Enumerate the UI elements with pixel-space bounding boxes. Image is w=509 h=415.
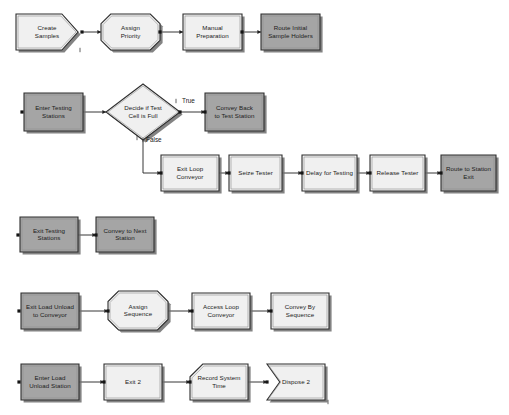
- node-label-assign-priority: AssignPriority: [121, 24, 142, 38]
- node-decide-test-cell-full[interactable]: Decide if TestCell is Full: [106, 84, 183, 143]
- row-exit-testing: Exit TestingStationsConvey to NextStatio…: [20, 217, 157, 255]
- connector-decide-test-cell-full-to-exit-loop-conveyor: [143, 140, 161, 173]
- node-route-initial-holders[interactable]: Route InitialSample Holders: [261, 14, 323, 53]
- connection-dot-dot-delay-in[interactable]: [300, 171, 303, 174]
- connection-dot-dot-enter-testing-in[interactable]: [20, 110, 23, 113]
- node-exit-testing-stations[interactable]: Exit TestingStations: [20, 217, 81, 255]
- row-sequence: Exit Load Unloadto ConveyorAssignSequenc…: [21, 291, 332, 333]
- connection-dot-dot-exit-testing-in[interactable]: [16, 233, 19, 236]
- connection-dot-dot-exitloop-in[interactable]: [159, 171, 162, 174]
- node-convey-by-sequence[interactable]: Convey BySequence: [271, 293, 332, 332]
- node-access-loop-conveyor[interactable]: Access LoopConveyor: [192, 293, 253, 332]
- branch-label-branch-false: False: [146, 136, 162, 143]
- connection-dot-dot-decide-true-out[interactable]: [178, 110, 181, 113]
- connection-dot-dot-assignseq-in[interactable]: [106, 309, 109, 312]
- node-seize-tester[interactable]: Seize Tester: [229, 155, 285, 194]
- connection-dot-dot-enter-load-in[interactable]: [17, 380, 20, 383]
- connection-dot-dot-release-in[interactable]: [368, 171, 371, 174]
- row-dispose: Enter LoadUnload StationExit 2Record Sys…: [21, 364, 328, 403]
- node-manual-preparation[interactable]: ManualPreparation: [183, 14, 245, 53]
- connection-dot-dot-access-in[interactable]: [190, 309, 193, 312]
- flowchart-diagram: CreateSamplesAssignPriorityManualPrepara…: [0, 0, 509, 415]
- node-label-dispose-2: Dispose 2: [282, 378, 310, 385]
- node-exit-load-unload-conveyor[interactable]: Exit Load Unloadto Conveyor: [21, 293, 82, 332]
- connection-dot-dot-seize-in[interactable]: [227, 171, 230, 174]
- connection-dot-dot-convey-next-in[interactable]: [94, 233, 97, 236]
- node-delay-for-testing[interactable]: Delay for Testing: [302, 155, 360, 194]
- node-enter-load-unload-station[interactable]: Enter LoadUnload Station: [21, 364, 82, 403]
- row-decide: Enter TestingStationsDecide if TestCell …: [24, 84, 267, 143]
- connection-dot-dot-manual-out[interactable]: [240, 30, 243, 33]
- connection-dot-dot-exit2-in[interactable]: [102, 380, 105, 383]
- row-create: CreateSamplesAssignPriorityManualPrepara…: [16, 14, 323, 53]
- node-label-create-samples: CreateSamples: [35, 24, 59, 38]
- node-exit-2[interactable]: Exit 2: [104, 364, 165, 403]
- node-label-enter-load-unload-station: Enter LoadUnload Station: [29, 374, 71, 388]
- node-label-seize-tester: Seize Tester: [238, 169, 273, 176]
- node-dispose-2[interactable]: Dispose 2: [267, 364, 328, 403]
- nodes-layer: CreateSamplesAssignPriorityManualPrepara…: [16, 14, 499, 403]
- node-label-delay-for-testing: Delay for Testing: [306, 169, 353, 176]
- node-release-tester[interactable]: Release Tester: [370, 155, 428, 194]
- node-route-station-exit[interactable]: Route to StationExit: [441, 155, 499, 194]
- node-assign-sequence[interactable]: AssignSequence: [108, 291, 171, 333]
- flowchart-canvas: CreateSamplesAssignPriorityManualPrepara…: [0, 0, 509, 415]
- connection-dot-dot-conveyby-in[interactable]: [269, 309, 272, 312]
- node-convey-back-test[interactable]: Convey Backto Test Station: [205, 93, 267, 134]
- connection-dot-dot-record-in[interactable]: [188, 380, 191, 383]
- node-convey-next-station[interactable]: Convey to NextStation: [96, 217, 157, 255]
- node-label-access-loop-conveyor: Access LoopConveyor: [203, 303, 239, 317]
- node-label-decide-test-cell-full: Decide if TestCell is Full: [124, 104, 162, 118]
- node-record-system-time[interactable]: Record SystemTime: [190, 364, 251, 403]
- node-exit-loop-conveyor[interactable]: Exit LoopConveyor: [161, 155, 222, 194]
- connection-dot-dot-dispose-in[interactable]: [265, 380, 268, 383]
- node-enter-testing-stations[interactable]: Enter TestingStations: [24, 93, 86, 134]
- node-label-exit-loop-conveyor: Exit LoopConveyor: [177, 165, 204, 179]
- node-create-samples[interactable]: CreateSamples: [16, 14, 81, 53]
- node-label-convey-by-sequence: Convey BySequence: [285, 303, 316, 317]
- node-label-route-initial-holders: Route InitialSample Holders: [268, 24, 313, 38]
- connection-dot-dot-assign-out[interactable]: [158, 30, 161, 33]
- connection-dot-dot-exit-load-in[interactable]: [17, 309, 20, 312]
- node-label-exit-2: Exit 2: [125, 378, 141, 385]
- node-assign-priority[interactable]: AssignPriority: [101, 14, 163, 53]
- node-label-release-tester: Release Tester: [377, 169, 419, 176]
- connection-dot-dot-create-out[interactable]: [80, 30, 83, 33]
- branch-label-branch-true: True: [182, 97, 195, 104]
- connection-dot-dot-routeexit-in[interactable]: [439, 171, 442, 174]
- node-label-convey-back-test: Convey Backto Test Station: [215, 104, 255, 118]
- connection-dot-dot-convey-back-in[interactable]: [203, 110, 206, 113]
- row-process: Exit LoopConveyorSeize TesterDelay for T…: [161, 155, 499, 194]
